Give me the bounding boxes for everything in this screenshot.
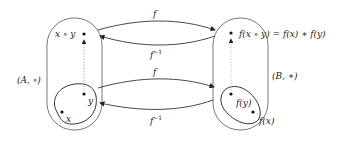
point-fx <box>251 110 254 113</box>
point-y <box>82 92 85 95</box>
label-fx: f(x) <box>258 116 275 126</box>
arrow-bottom-f-inverse <box>100 100 213 109</box>
label-bottom-f: f <box>152 67 158 77</box>
label-set-a: (A, ∘) <box>17 75 41 85</box>
point-fy <box>229 92 232 95</box>
point-x-circ-y <box>82 32 85 35</box>
label-x-circ-y: x ∘ y <box>55 29 76 39</box>
label-fy: f(y) <box>235 98 252 108</box>
label-top-f-inverse: f−1 <box>149 48 162 60</box>
point-f-x-circ-y <box>229 31 232 34</box>
arrow-top-f <box>98 21 215 30</box>
label-y: y <box>87 96 94 106</box>
label-bottom-f-inverse: f−1 <box>149 114 162 126</box>
point-x <box>60 110 63 113</box>
label-top-f: f <box>152 9 158 19</box>
arrow-bottom-f <box>98 79 214 88</box>
homomorphism-diagram: x ∘ y y x (A, ∘) f(x ∘ y) = f(x) ∗ f(y) … <box>0 0 355 141</box>
label-f-x-circ-y: f(x ∘ y) = f(x) ∗ f(y) <box>238 29 326 39</box>
label-set-b: (B, ∗) <box>272 71 298 81</box>
arrow-top-f-inverse <box>100 36 215 45</box>
label-x: x <box>66 114 71 124</box>
